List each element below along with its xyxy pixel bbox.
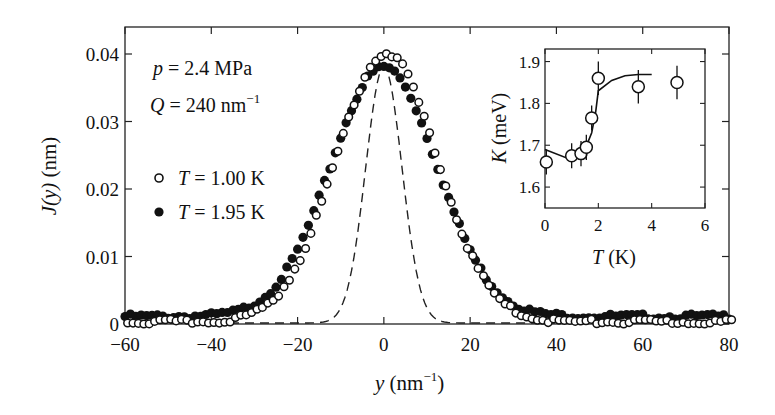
data-point-1-00K	[507, 302, 515, 310]
inset-data-point	[580, 141, 592, 153]
inset-x-tick-label: 4	[647, 216, 656, 235]
data-point-1-00K	[431, 149, 439, 157]
data-point-1-00K	[307, 230, 315, 238]
data-point-1-00K	[458, 230, 466, 238]
x-tick-label: 40	[547, 334, 566, 355]
annotation-momentum: Q = 240 nm−1	[150, 91, 260, 116]
inset-x-axis-label: T (K)	[592, 246, 636, 269]
data-point-1-00K	[291, 265, 299, 273]
data-point-1-00K	[474, 265, 482, 273]
data-point-1-00K	[728, 316, 736, 324]
data-point-1-00K	[329, 164, 337, 172]
inset-data-point	[586, 112, 598, 124]
data-point-1-00K	[453, 216, 461, 224]
x-tick-label: 60	[633, 334, 652, 355]
data-point-1-00K	[469, 252, 477, 260]
data-point-1-95K	[412, 106, 421, 115]
data-point-1-00K	[415, 99, 423, 107]
inset-data-point	[632, 81, 644, 93]
data-point-1-00K	[280, 283, 288, 291]
data-point-1-00K	[442, 182, 450, 190]
main-y-axis-label: J(y) (nm)	[37, 137, 61, 216]
x-tick-label: 20	[461, 334, 480, 355]
data-point-1-00K	[302, 245, 310, 253]
data-point-1-00K	[334, 148, 342, 156]
inset-data-point	[592, 72, 604, 84]
y-tick-label: 0.04	[86, 44, 120, 65]
data-point-1-00K	[410, 83, 418, 91]
data-point-1-95K	[293, 245, 302, 254]
data-point-1-00K	[313, 211, 321, 219]
data-point-1-00K	[485, 282, 493, 290]
inset-background	[545, 49, 705, 208]
data-point-1-00K	[296, 257, 304, 265]
legend-open-circle-icon	[155, 174, 163, 182]
inset-data-point	[671, 76, 683, 88]
data-point-1-00K	[350, 101, 358, 109]
legend-filled-circle-icon	[154, 207, 163, 216]
y-tick-label: 0.02	[86, 179, 119, 200]
data-point-1-95K	[282, 262, 291, 271]
data-point-1-95K	[271, 283, 280, 292]
data-point-1-00K	[361, 74, 369, 82]
data-point-1-00K	[420, 113, 428, 121]
y-tick-label: 0.01	[86, 247, 119, 268]
data-point-1-00K	[323, 180, 331, 188]
legend-label-2: T = 1.95 K	[178, 201, 265, 223]
y-tick-label: 0	[110, 314, 120, 335]
inset-x-tick-label: 6	[701, 216, 710, 235]
inset-y-tick-label: 1.7	[519, 136, 541, 155]
data-point-1-00K	[404, 70, 412, 78]
inset-x-tick-label: 2	[594, 216, 603, 235]
chart-figure: −60−40−2002040608000.010.020.030.04 p = …	[0, 0, 775, 415]
inset-y-tick-label: 1.8	[519, 94, 540, 113]
inset-x-tick-label: 0	[541, 216, 550, 235]
data-point-1-00K	[480, 272, 488, 280]
data-point-1-00K	[275, 292, 283, 300]
data-point-1-95K	[298, 233, 307, 242]
data-point-1-95K	[449, 207, 458, 216]
x-tick-label: −60	[110, 334, 140, 355]
main-x-axis-label: y (nm−1)	[373, 369, 444, 395]
legend: T = 1.00 K T = 1.95 K	[154, 167, 265, 223]
data-point-1-00K	[399, 60, 407, 68]
data-point-1-00K	[356, 87, 364, 95]
data-point-1-95K	[304, 221, 313, 230]
data-point-1-00K	[426, 129, 434, 137]
data-point-1-00K	[345, 113, 353, 121]
data-point-1-95K	[406, 94, 415, 103]
x-tick-label: −20	[283, 334, 313, 355]
y-tick-label: 0.03	[86, 112, 119, 133]
inset-data-point	[540, 156, 552, 168]
data-point-1-00K	[437, 166, 445, 174]
data-point-1-00K	[286, 276, 294, 284]
legend-label-1: T = 1.00 K	[178, 167, 265, 189]
x-tick-label: −40	[196, 334, 226, 355]
x-tick-label: 0	[379, 334, 389, 355]
data-point-1-95K	[288, 254, 297, 263]
inset-y-tick-label: 1.9	[519, 53, 540, 72]
data-point-1-95K	[395, 73, 404, 82]
inset-y-axis-label: K (meV)	[488, 93, 511, 165]
data-point-1-00K	[318, 197, 326, 205]
inset-y-tick-label: 1.6	[519, 178, 540, 197]
data-point-1-95K	[401, 83, 410, 92]
data-point-1-00K	[447, 199, 455, 207]
data-point-1-00K	[340, 130, 348, 138]
annotation-pressure: p = 2.4 MPa	[151, 57, 252, 80]
x-tick-label: 80	[720, 334, 739, 355]
data-point-1-00K	[464, 245, 472, 253]
